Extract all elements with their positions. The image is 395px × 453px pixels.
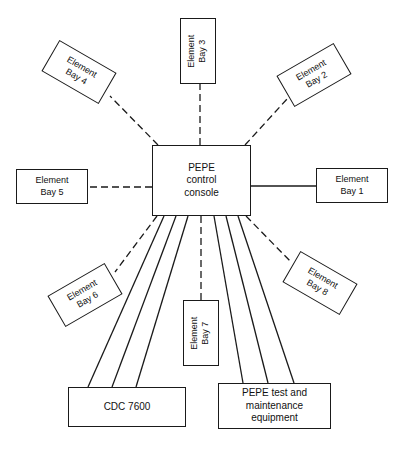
node-label: Element Bay 2 — [294, 57, 334, 93]
node-label: Element Bay 6 — [65, 277, 105, 313]
node-pepe-test-maintenance-equipment[interactable]: PEPE test and maintenance equipment — [218, 383, 331, 429]
node-element-bay-5[interactable]: Element Bay 5 — [16, 169, 88, 204]
connector-bay-8 — [246, 216, 291, 262]
node-label: Element Bay 1 — [335, 174, 368, 197]
node-element-bay-7[interactable]: Element Bay 7 — [183, 300, 219, 366]
connector-bay-4 — [110, 96, 158, 145]
node-label: CDC 7600 — [104, 401, 151, 414]
node-label: Element Bay 8 — [300, 265, 340, 301]
node-pepe-control-console[interactable]: PEPE control console — [152, 145, 251, 216]
node-cdc-7600[interactable]: CDC 7600 — [68, 387, 186, 427]
node-label: PEPE test and maintenance equipment — [242, 387, 307, 425]
node-element-bay-1[interactable]: Element Bay 1 — [316, 168, 388, 203]
node-label: PEPE control console — [184, 162, 218, 200]
node-label: Element Bay 3 — [187, 34, 210, 67]
diagram-canvas: PEPE control console Element Bay 1 Eleme… — [0, 0, 395, 453]
node-label: Element Bay 5 — [35, 175, 68, 198]
node-element-bay-3[interactable]: Element Bay 3 — [180, 18, 216, 84]
node-label: Element Bay 4 — [59, 54, 99, 90]
node-label: Element Bay 7 — [190, 316, 213, 349]
connector-bay-2 — [245, 99, 287, 145]
connector-bay-6 — [115, 216, 157, 272]
